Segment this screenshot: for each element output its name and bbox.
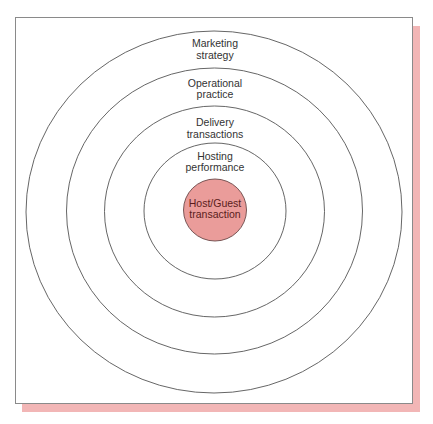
ring-label-hosting-line2: performance (186, 161, 245, 173)
ring-label-marketing-line2: strategy (196, 49, 234, 61)
ring-label-operational-line2: practice (197, 88, 234, 100)
core-label-line2: transaction (189, 208, 241, 220)
ring-label-delivery-line2: transactions (187, 128, 244, 140)
ring-label-marketing-line1: Marketing (192, 37, 238, 49)
concentric-diagram: Marketing strategy Operational practice … (0, 0, 433, 424)
ring-label-delivery-line1: Delivery (196, 116, 235, 128)
